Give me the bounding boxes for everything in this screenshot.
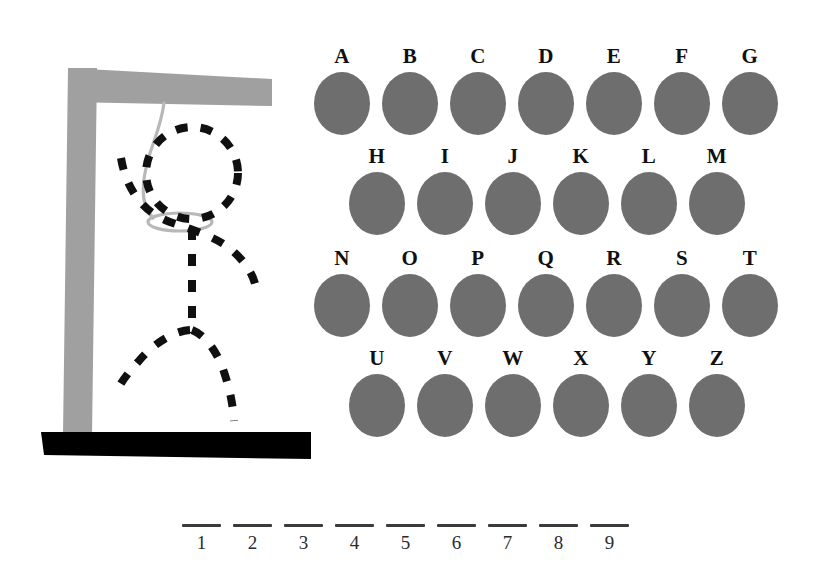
hangman-game: A B C D E F G: [0, 0, 832, 570]
blank-number: 5: [401, 533, 411, 552]
word-blank-slot: 5: [380, 524, 431, 552]
letter-row-1: A B C D E F G: [308, 46, 784, 135]
letter-key-label: Z: [710, 348, 725, 369]
letter-key-blob: [450, 274, 506, 337]
letter-key-blob: [654, 72, 710, 135]
letter-key-label: X: [573, 348, 589, 369]
letter-key-blob: [349, 374, 405, 437]
letter-key-blob: [689, 172, 745, 235]
letter-key-label: O: [402, 248, 419, 269]
letter-key-label: M: [707, 146, 727, 167]
blank-line: [182, 524, 221, 527]
letter-key-label: W: [502, 348, 524, 369]
gallows-ground-bar: [41, 432, 311, 459]
letter-key-blob: [485, 374, 541, 437]
blank-line: [437, 524, 476, 527]
letter-key-label: P: [471, 248, 484, 269]
letter-key-label: H: [369, 146, 386, 167]
letter-key-m[interactable]: M: [683, 146, 751, 235]
letter-key-label: Y: [641, 348, 657, 369]
letter-key-c[interactable]: C: [444, 46, 512, 135]
blank-line: [233, 524, 272, 527]
figure-leg-left: [119, 330, 190, 387]
word-blank-slot: 2: [227, 524, 278, 552]
blank-line: [284, 524, 323, 527]
letter-row-4: U V W X Y Z: [343, 348, 751, 437]
blank-line: [488, 524, 527, 527]
letter-key-x[interactable]: X: [547, 348, 615, 437]
gallows-horizontal-beam: [68, 68, 272, 106]
figure-head: [146, 127, 238, 219]
letter-key-j[interactable]: J: [479, 146, 547, 235]
letter-key-label: V: [437, 348, 453, 369]
letter-key-r[interactable]: R: [580, 248, 648, 337]
letter-key-label: A: [334, 46, 350, 67]
letter-key-g[interactable]: G: [716, 46, 784, 135]
blank-number: 8: [554, 533, 564, 552]
letter-key-label: B: [403, 46, 418, 67]
letter-key-label: Q: [538, 248, 555, 269]
letter-key-blob: [586, 72, 642, 135]
letter-key-blob: [450, 72, 506, 135]
letter-key-label: J: [508, 146, 519, 167]
letter-key-a[interactable]: A: [308, 46, 376, 135]
letter-key-blob: [518, 274, 574, 337]
letter-key-e[interactable]: E: [580, 46, 648, 135]
blank-number: 9: [605, 533, 615, 552]
letter-key-l[interactable]: L: [615, 146, 683, 235]
letter-key-blob: [417, 374, 473, 437]
letter-key-d[interactable]: D: [512, 46, 580, 135]
gallows-panel: [0, 0, 330, 500]
gallows-drawing: [0, 0, 330, 500]
letter-key-label: E: [607, 46, 622, 67]
letter-key-s[interactable]: S: [648, 248, 716, 337]
letter-key-label: R: [606, 248, 622, 269]
letter-key-label: F: [675, 46, 688, 67]
blank-line: [590, 524, 629, 527]
letter-key-label: C: [470, 46, 486, 67]
letter-row-3: N O P Q R S T: [308, 248, 784, 337]
blank-line: [335, 524, 374, 527]
word-blank-slot: 6: [431, 524, 482, 552]
letter-key-label: T: [743, 248, 758, 269]
letter-key-blob: [621, 172, 677, 235]
letter-key-h[interactable]: H: [343, 146, 411, 235]
letter-key-blob: [417, 172, 473, 235]
letter-key-t[interactable]: T: [716, 248, 784, 337]
letter-key-y[interactable]: Y: [615, 348, 683, 437]
letter-key-label: U: [369, 348, 385, 369]
blank-line: [539, 524, 578, 527]
letter-key-w[interactable]: W: [479, 348, 547, 437]
letter-key-label: K: [573, 146, 590, 167]
letter-key-blob: [722, 72, 778, 135]
letter-key-blob: [722, 274, 778, 337]
letter-row-2: H I J K L M: [343, 146, 751, 235]
letter-key-blob: [485, 172, 541, 235]
letter-key-i[interactable]: I: [411, 146, 479, 235]
letter-key-f[interactable]: F: [648, 46, 716, 135]
letter-key-k[interactable]: K: [547, 146, 615, 235]
letter-key-blob: [689, 374, 745, 437]
letter-key-u[interactable]: U: [343, 348, 411, 437]
word-blank-slot: 8: [533, 524, 584, 552]
letter-key-blob: [586, 274, 642, 337]
letter-key-v[interactable]: V: [411, 348, 479, 437]
letter-key-n[interactable]: N: [308, 248, 376, 337]
blank-number: 6: [452, 533, 462, 552]
letter-keyboard: A B C D E F G: [300, 46, 800, 451]
letter-key-label: D: [538, 46, 554, 67]
letter-key-p[interactable]: P: [444, 248, 512, 337]
letter-key-blob: [518, 72, 574, 135]
word-blank-slot: 7: [482, 524, 533, 552]
word-blank-slot: 3: [278, 524, 329, 552]
gallows-vertical-post: [63, 68, 97, 436]
word-blank-slot: 1: [176, 524, 227, 552]
letter-key-blob: [553, 374, 609, 437]
letter-key-z[interactable]: Z: [683, 348, 751, 437]
word-blank-slot: 4: [329, 524, 380, 552]
blank-number: 3: [299, 533, 309, 552]
letter-key-label: L: [642, 146, 657, 167]
letter-key-o[interactable]: O: [376, 248, 444, 337]
letter-key-b[interactable]: B: [376, 46, 444, 135]
letter-key-q[interactable]: Q: [512, 248, 580, 337]
